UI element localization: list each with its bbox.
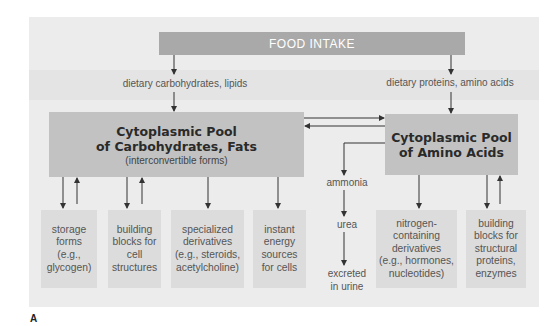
arrow-amino-to-ammonia (344, 143, 385, 175)
figure-label: A (30, 313, 37, 324)
arrow-layer (0, 0, 557, 326)
